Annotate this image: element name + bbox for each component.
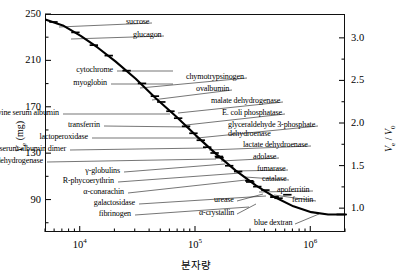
- annotation-r-phycoerythrin: R-phycoerythrin: [63, 177, 114, 185]
- annotation-apoferritin: apoferritin: [277, 186, 310, 194]
- y-axis-right-title: Ve / V0: [383, 125, 397, 152]
- annotation-globulins: γ-globulins: [85, 167, 120, 175]
- annotation-glucagon: glucagon: [133, 31, 161, 39]
- x-tick-label: 104: [73, 238, 87, 250]
- annotation-e-coli-phosphatase: E. coli phosphatase: [222, 109, 282, 117]
- annotation-adolase: adolase: [253, 153, 276, 161]
- y-axis-left-title: Ve (mg): [14, 121, 28, 152]
- annotation-glyceraldehyde-3-phosphate: glyceraldehyde 3-phosphate: [228, 121, 315, 129]
- y-tick-label-left: 250: [25, 9, 41, 20]
- annotation-dehydroenase: dehydroenase: [228, 130, 271, 138]
- x-tick-label: 105: [188, 238, 202, 250]
- y-tick-label-left: 170: [25, 102, 41, 113]
- annotation-fumarase: fumarase: [257, 165, 285, 173]
- y-tick-label-right: 2.5: [351, 75, 364, 86]
- annotation-blue-dextran: blue dextran: [254, 219, 292, 227]
- annotation-ferritin: ferritin: [292, 196, 313, 204]
- annotation-fibrinogen: fibrinogen: [99, 210, 131, 218]
- annotation-transferrin: transferrin: [68, 121, 100, 129]
- annotation-catalase: catalase: [262, 175, 286, 183]
- x-tick-label: 106: [303, 238, 317, 250]
- annotation-lactoperoxidase: lactoperoxidase: [39, 133, 88, 141]
- annotation-urease: urease: [214, 196, 234, 204]
- y-tick-label-left: 210: [25, 55, 41, 66]
- annotation-malate-dehydrogenase: malate dehydrogenase: [211, 97, 280, 105]
- annotation-conarachin: α-conarachin: [83, 188, 124, 196]
- annotation-sucrose: sucrose: [126, 18, 149, 26]
- annotation-lactate-dehydroenase: lactate dehydroenase: [243, 141, 308, 149]
- y-tick-label-right: 2.0: [351, 118, 364, 129]
- annotation-myoglobin: myoglobin: [73, 79, 107, 87]
- annotation-chymotrypsinogen: chymotrypsinogen: [186, 73, 244, 81]
- x-axis-title: 분자량: [181, 257, 211, 272]
- annotation-cytochrome: cytochrome: [76, 66, 113, 74]
- y-tick-label-left: 90: [31, 194, 42, 205]
- annotation-galactosidase: galactosidase: [94, 199, 135, 207]
- annotation-ovalbumin: ovalbumin: [196, 85, 229, 93]
- annotation-crystallin: α-crystallin: [199, 209, 234, 217]
- y-tick-label-right: 1.0: [351, 203, 364, 214]
- y-tick-label-right: 3.0: [351, 33, 364, 44]
- y-tick-label-right: 1.5: [351, 160, 364, 171]
